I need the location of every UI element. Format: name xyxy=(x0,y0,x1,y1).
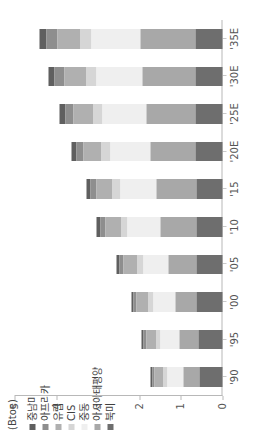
y-axis-tick xyxy=(14,396,15,400)
bar-segment[interactable] xyxy=(90,179,96,199)
bar-stack[interactable] xyxy=(71,142,222,162)
bar-segment[interactable] xyxy=(112,179,119,199)
bar-segment[interactable] xyxy=(39,29,46,49)
bar-segment[interactable] xyxy=(146,104,195,124)
x-axis-tick xyxy=(222,301,226,302)
y-axis-tick-label: 4 xyxy=(50,403,61,409)
bar-segment[interactable] xyxy=(64,67,86,87)
y-axis-tick-label: 3 xyxy=(92,403,103,409)
bar-segment[interactable] xyxy=(143,255,169,275)
bar-segment[interactable] xyxy=(160,217,196,237)
bar-segment[interactable] xyxy=(96,217,99,237)
bar-segment[interactable] xyxy=(86,67,96,87)
x-axis-tick xyxy=(222,263,226,264)
legend-swatch-icon xyxy=(55,424,61,430)
legend-swatch-icon xyxy=(94,424,100,430)
bar-segment[interactable] xyxy=(123,255,137,275)
bar-segment[interactable] xyxy=(91,29,140,49)
bar-segment[interactable] xyxy=(154,367,163,387)
bar-segment[interactable] xyxy=(102,104,146,124)
bar-stack[interactable] xyxy=(130,292,222,312)
bar-segment[interactable] xyxy=(195,67,222,87)
plot-inner: 012345'90'95'00'05'10'15'20E'25E'30E'35E xyxy=(14,20,222,396)
y-axis-tick xyxy=(56,396,57,400)
x-axis-tick xyxy=(222,151,226,152)
bar-segment[interactable] xyxy=(96,67,143,87)
x-axis-tick xyxy=(222,226,226,227)
bar-segment[interactable] xyxy=(86,179,90,199)
bar-segment[interactable] xyxy=(167,367,184,387)
bar-segment[interactable] xyxy=(196,179,222,199)
bar-segment[interactable] xyxy=(183,367,199,387)
x-axis-tick-label: '90 xyxy=(228,369,239,384)
y-axis-tick-label: 5 xyxy=(9,403,20,409)
bar-segment[interactable] xyxy=(121,217,128,237)
bar-segment[interactable] xyxy=(195,104,222,124)
bar-segment[interactable] xyxy=(179,330,198,350)
bar-segment[interactable] xyxy=(142,67,194,87)
bar-segment[interactable] xyxy=(73,104,93,124)
x-axis-tick-label: '20E xyxy=(228,141,239,163)
bar-segment[interactable] xyxy=(71,142,76,162)
bar-segment[interactable] xyxy=(105,217,121,237)
bar-stack[interactable] xyxy=(48,67,222,87)
bar-segment[interactable] xyxy=(57,29,80,49)
bar-segment[interactable] xyxy=(137,255,143,275)
bar-segment[interactable] xyxy=(148,292,153,312)
bar-segment[interactable] xyxy=(110,142,151,162)
x-axis-tick-label: '95 xyxy=(228,332,239,347)
bar-segment[interactable] xyxy=(150,142,195,162)
bar-segment[interactable] xyxy=(160,330,179,350)
x-axis-tick xyxy=(222,113,226,114)
bar-stack[interactable] xyxy=(150,367,222,387)
rotated-chart-wrapper: (Btoe) 중남미아프리카유럽CIS중동아시아태평양북미 012345'90'… xyxy=(0,0,261,436)
bar-segment[interactable] xyxy=(196,292,222,312)
y-axis-tick xyxy=(180,396,181,400)
bar-segment[interactable] xyxy=(65,104,73,124)
y-axis-tick-label: 2 xyxy=(133,403,144,409)
bar-stack[interactable] xyxy=(141,330,222,350)
bar-segment[interactable] xyxy=(175,292,197,312)
y-axis-tick xyxy=(139,396,140,400)
bar-segment[interactable] xyxy=(156,330,160,350)
bar-segment[interactable] xyxy=(198,330,222,350)
legend-swatch-icon xyxy=(81,424,87,430)
bar-segment[interactable] xyxy=(48,67,54,87)
bar-segment[interactable] xyxy=(195,142,222,162)
bar-stack[interactable] xyxy=(116,255,222,275)
bar-segment[interactable] xyxy=(156,179,196,199)
bar-segment[interactable] xyxy=(153,292,175,312)
y-axis-tick-label: 1 xyxy=(175,403,186,409)
bar-segment[interactable] xyxy=(127,217,160,237)
bar-segment[interactable] xyxy=(199,367,222,387)
bar-segment[interactable] xyxy=(46,29,57,49)
bar-segment[interactable] xyxy=(120,179,157,199)
bar-segment[interactable] xyxy=(163,367,166,387)
bar-segment[interactable] xyxy=(80,29,91,49)
bar-stack[interactable] xyxy=(59,104,222,124)
bar-segment[interactable] xyxy=(195,29,222,49)
bar-segment[interactable] xyxy=(140,29,195,49)
x-axis-tick-label: '30E xyxy=(228,66,239,88)
bar-segment[interactable] xyxy=(196,255,222,275)
bar-segment[interactable] xyxy=(54,67,64,87)
bar-segment[interactable] xyxy=(168,255,195,275)
bar-segment[interactable] xyxy=(101,142,109,162)
chart-figure: (Btoe) 중남미아프리카유럽CIS중동아시아태평양북미 012345'90'… xyxy=(0,0,261,436)
bar-segment[interactable] xyxy=(136,292,148,312)
bar-segment[interactable] xyxy=(133,292,136,312)
bar-segment[interactable] xyxy=(76,142,83,162)
bar-stack[interactable] xyxy=(86,179,222,199)
bar-segment[interactable] xyxy=(59,104,64,124)
legend-swatch-icon xyxy=(42,424,48,430)
bar-stack[interactable] xyxy=(96,217,222,237)
bar-segment[interactable] xyxy=(96,179,113,199)
bar-segment[interactable] xyxy=(93,104,102,124)
bar-segment[interactable] xyxy=(196,217,222,237)
y-axis-tick xyxy=(97,396,98,400)
bar-segment[interactable] xyxy=(146,330,156,350)
bar-stack[interactable] xyxy=(39,29,222,49)
bar-segment[interactable] xyxy=(83,142,102,162)
bar-segment[interactable] xyxy=(100,217,105,237)
bar-segment[interactable] xyxy=(119,255,123,275)
